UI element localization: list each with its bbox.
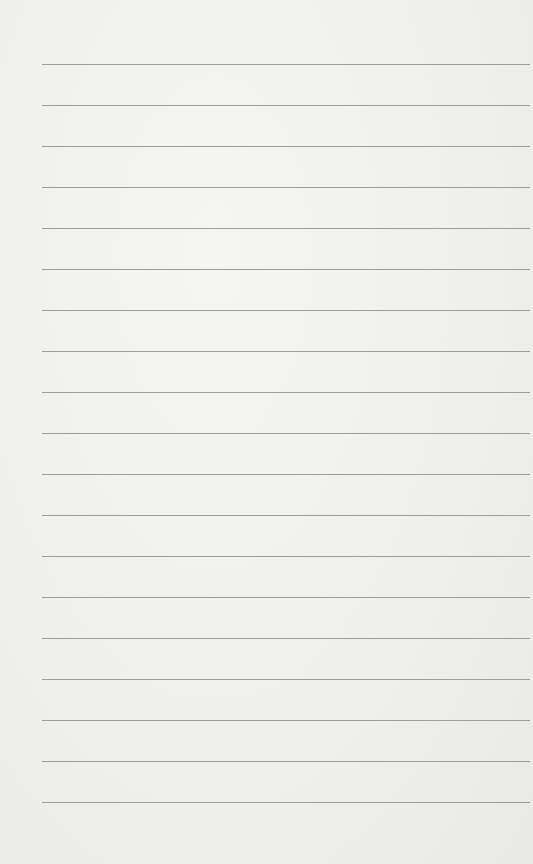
- ruled-line: [42, 187, 530, 188]
- ruled-line: [42, 392, 530, 393]
- ruled-line: [42, 515, 530, 516]
- ruled-line: [42, 597, 530, 598]
- ruled-line: [42, 351, 530, 352]
- ruled-line: [42, 802, 530, 803]
- ruled-line: [42, 228, 530, 229]
- ruled-line: [42, 638, 530, 639]
- ruled-line: [42, 310, 530, 311]
- ruled-line: [42, 64, 530, 65]
- ruled-line: [42, 761, 530, 762]
- ruled-lines: [0, 0, 533, 864]
- ruled-line: [42, 269, 530, 270]
- ruled-line: [42, 433, 530, 434]
- ruled-line: [42, 474, 530, 475]
- ruled-line: [42, 679, 530, 680]
- ruled-line: [42, 720, 530, 721]
- ruled-line: [42, 105, 530, 106]
- ruled-line: [42, 146, 530, 147]
- lined-paper: [0, 0, 533, 864]
- ruled-line: [42, 556, 530, 557]
